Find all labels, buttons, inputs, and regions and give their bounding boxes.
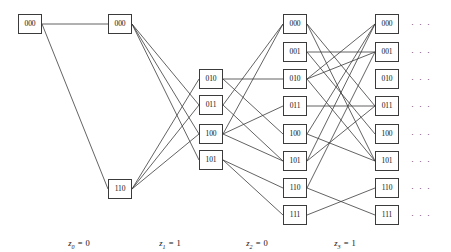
stage-label-z0: z0 = 0: [68, 238, 90, 250]
stage-label-z1: z1 = 1: [159, 238, 181, 250]
stage-label-z3: z3 = 1: [334, 238, 356, 250]
stage-label-z2: z2 = 0: [246, 238, 268, 250]
trellis-diagram: 0000001100100111001010000010100111001011…: [0, 0, 451, 252]
stage-label-layer: z0 = 0z1 = 1z2 = 0z3 = 1: [0, 0, 451, 252]
